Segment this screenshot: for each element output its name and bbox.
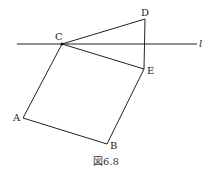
segment-EC — [62, 44, 144, 69]
label-line-l: l — [199, 38, 202, 49]
segment-AB — [23, 118, 107, 144]
figure-caption: 図6.8 — [93, 156, 119, 167]
label-C: C — [55, 31, 63, 42]
segment-CD — [62, 19, 145, 44]
segment-DE — [144, 19, 145, 69]
label-E: E — [147, 65, 154, 76]
segment-BE — [107, 69, 144, 144]
label-D: D — [141, 7, 149, 18]
point-C-marker — [60, 42, 63, 45]
segment-CA — [23, 44, 62, 118]
geometry-diagram: C D E A B l 図6.8 — [0, 0, 213, 174]
label-B: B — [110, 140, 117, 151]
label-A: A — [12, 112, 21, 123]
